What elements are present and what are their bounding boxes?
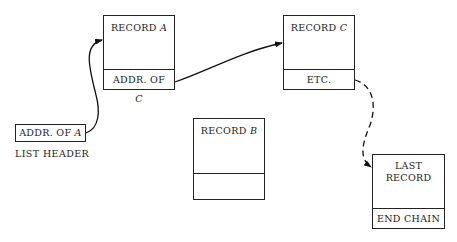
- record-c: RECORD C ETC.: [283, 15, 355, 90]
- record-a-pointer-field: ADDR. OF C: [104, 69, 174, 89]
- linked-list-diagram: RECORD A ADDR. OF C RECORD C ETC. RECORD…: [0, 0, 457, 242]
- record-b-title: RECORD B: [194, 119, 264, 137]
- last-record: LAST RECORD END CHAIN: [372, 154, 445, 229]
- record-a-title: RECORD A: [104, 16, 174, 34]
- record-b: RECORD B: [193, 118, 265, 200]
- arrow-record-a-to-record-c: [175, 43, 282, 82]
- last-record-title: LAST RECORD: [373, 155, 444, 184]
- record-b-pointer-field: [194, 173, 264, 199]
- list-header-cell: ADDR. OF A: [15, 124, 86, 142]
- last-record-pointer-field: END CHAIN: [373, 208, 444, 228]
- arrow-header-to-record-a: [86, 40, 102, 133]
- arrow-record-c-to-last-record: [355, 80, 373, 167]
- list-header-caption: LIST HEADER: [15, 148, 89, 159]
- record-a: RECORD A ADDR. OF C: [103, 15, 175, 90]
- record-c-pointer-field: ETC.: [284, 69, 354, 89]
- record-c-title: RECORD C: [284, 16, 354, 34]
